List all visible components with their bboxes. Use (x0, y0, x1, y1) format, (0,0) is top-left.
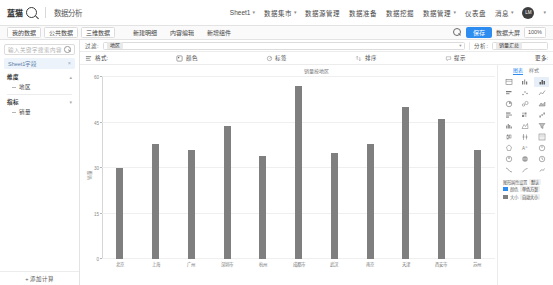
toolbar-more[interactable]: 更多: (535, 54, 549, 62)
color-value[interactable]: 单色方案 (520, 186, 540, 192)
gauge-icon[interactable] (534, 143, 549, 153)
bar[interactable] (224, 126, 231, 259)
bar-slot (352, 77, 388, 259)
close-icon[interactable]: × (68, 61, 71, 67)
matrix-icon[interactable] (534, 132, 549, 142)
chevron-up-icon: ▴ (69, 75, 72, 80)
chart-type-grid: Aa (500, 75, 551, 177)
x-axis-tick-label: 武汉 (316, 261, 352, 273)
bar[interactable] (474, 150, 481, 259)
chevron-down-icon: ▾ (453, 10, 456, 15)
tab-styles[interactable]: 样式 (529, 66, 539, 74)
map-point-icon[interactable] (502, 154, 517, 164)
top-bar-nav: Sheet1 ▾ 数据集市 ▾ 数据源管理 数据准备 数据挖掘 数据管理 ▾ 仪… (230, 7, 546, 19)
chord-icon[interactable] (534, 165, 549, 175)
topbar-item-3[interactable]: 数据准备 (349, 8, 377, 18)
toolbar-color[interactable]: 颜色 (176, 54, 198, 62)
menu-content-edit[interactable]: 内容编辑 (165, 27, 199, 38)
x-axis-tick-label: 南京 (352, 261, 388, 273)
menu-group-data: 我的数据 公共数据 三维数据 (7, 27, 115, 38)
sidebar-search[interactable] (4, 44, 75, 55)
map-area-icon[interactable] (518, 154, 533, 164)
pie-chart-icon[interactable] (502, 99, 517, 109)
zoom-level-badge[interactable]: 100% (524, 27, 546, 38)
brand[interactable]: 蓝猫 数据分析 (7, 7, 82, 18)
panel-tabs: 图表 样式 (500, 65, 551, 75)
area-chart-icon[interactable] (534, 99, 549, 109)
tree-icon[interactable] (518, 165, 533, 175)
topbar-item-8[interactable]: 消息 ▾ (495, 8, 514, 18)
y-axis-title: 销量 (86, 170, 92, 180)
bar[interactable] (367, 144, 374, 259)
table-chart-icon[interactable] (502, 77, 517, 87)
add-calculation-button[interactable]: + 添加计算 (25, 275, 54, 283)
tree-leaf-sales[interactable]: 销量 (4, 107, 75, 117)
dashboard-label[interactable]: 数据大屏 (496, 28, 520, 37)
color-swatch-icon (503, 187, 508, 191)
bar[interactable] (295, 86, 302, 259)
topbar-item-6[interactable]: 数据管理 ▾ (423, 8, 456, 18)
avatar[interactable]: LM (522, 7, 534, 19)
save-button[interactable]: 保存 (466, 27, 492, 38)
line-chart-icon[interactable] (534, 88, 549, 98)
chevron-down-icon[interactable]: ▾ (543, 10, 546, 15)
menu-public-data[interactable]: 公共数据 (44, 27, 78, 38)
filter-select-dimension[interactable]: 地区 ▾ (103, 42, 466, 50)
bar[interactable] (331, 153, 338, 259)
topbar-item-2[interactable]: 数据源管理 (305, 8, 340, 18)
scatter-chart-icon[interactable] (518, 88, 533, 98)
tree-node-measure[interactable]: 指标 ▾ (4, 97, 75, 107)
mountain-chart-icon[interactable] (518, 121, 533, 131)
x-axis-tick-label: 上海 (138, 261, 174, 273)
chevron-down-icon: ▾ (252, 10, 255, 15)
topbar-item-0[interactable]: Sheet1 ▾ (230, 9, 255, 16)
bar[interactable] (188, 150, 195, 259)
clock-icon[interactable] (534, 154, 549, 164)
tree-leaf-region[interactable]: 地区 (4, 82, 75, 92)
heatmap-icon[interactable] (518, 110, 533, 120)
filter-select-measure[interactable]: 销量汇总 (492, 42, 548, 50)
x-axis-tick-label: 天津 (388, 261, 424, 273)
tree-node-dimension[interactable]: 维度 ▴ (4, 72, 75, 82)
bar[interactable] (152, 144, 159, 259)
search-input[interactable] (8, 47, 62, 53)
chart-toolbar: 格式: 颜色 标签 排序 (80, 52, 553, 65)
funnel-icon[interactable] (534, 121, 549, 131)
graphic-props-value[interactable]: 默认 (529, 179, 541, 185)
bubble-chart-icon[interactable] (518, 99, 533, 109)
toolbar-tooltip[interactable]: 提示 (445, 54, 467, 62)
sankey-icon[interactable] (502, 165, 517, 175)
toolbar-format[interactable]: 格式: (85, 54, 108, 62)
menu-my-data[interactable]: 我的数据 (7, 27, 41, 38)
toolbar-tag[interactable]: 标签 (266, 54, 288, 62)
topbar-item-7[interactable]: 仪表盘 (465, 8, 486, 18)
wordcloud-icon[interactable]: Aa (518, 143, 533, 153)
topbar-item-4[interactable]: 数据挖掘 (386, 8, 414, 18)
bar[interactable] (402, 107, 409, 259)
topbar-item-1[interactable]: 数据集市 ▾ (264, 8, 297, 18)
bar[interactable] (116, 168, 123, 259)
bar[interactable] (259, 156, 266, 259)
toolbar-sort[interactable]: 排序 (355, 54, 377, 62)
waterfall-icon[interactable] (534, 110, 549, 120)
hbar-chart-icon[interactable] (502, 110, 517, 120)
grouped-bar-icon[interactable] (518, 77, 533, 87)
bullet-icon (12, 87, 16, 88)
x-axis-tick-label: 西安市 (424, 261, 460, 273)
radar-icon[interactable] (502, 143, 517, 153)
menu-3d-data[interactable]: 三维数据 (81, 27, 115, 38)
search-icon[interactable] (64, 46, 71, 53)
boxplot-icon[interactable] (502, 132, 517, 142)
histogram-icon[interactable] (502, 121, 517, 131)
candlestick-icon[interactable] (518, 132, 533, 142)
tab-charts[interactable]: 图表 (513, 66, 523, 75)
stacked-bar-icon[interactable] (502, 88, 517, 98)
topbar-item-0-label: Sheet1 (230, 9, 251, 16)
column-chart-icon[interactable] (534, 77, 549, 87)
bullet-icon (12, 112, 16, 113)
bar[interactable] (438, 119, 445, 259)
size-value[interactable]: 自动大小 (520, 194, 540, 200)
menu-new-detail[interactable]: 新建明细 (128, 27, 162, 38)
menu-add-component[interactable]: 新增组件 (202, 27, 236, 38)
search-icon[interactable] (453, 28, 462, 37)
